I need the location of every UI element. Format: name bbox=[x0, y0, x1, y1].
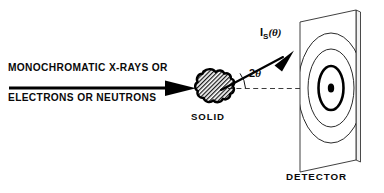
detector-panel bbox=[298, 10, 364, 172]
detector-label: DETECTOR bbox=[286, 172, 347, 182]
incident-beam-label-line2: ELECTRONS OR NEUTRONS bbox=[8, 93, 156, 103]
scattered-intensity-label: IS(θ) bbox=[260, 27, 281, 41]
scattering-angle-label: 2θ bbox=[249, 68, 261, 79]
scattering-diagram-figure: MONOCHROMATIC X-RAYS OR ELECTRONS OR NEU… bbox=[0, 0, 384, 193]
scattering-angle-arc bbox=[240, 73, 246, 88]
detector-center-spot bbox=[328, 83, 334, 92]
incident-beam-label-line1: MONOCHROMATIC X-RAYS OR bbox=[8, 63, 168, 73]
angle-theta-symbol: θ bbox=[255, 67, 261, 79]
solid-sample-label: SOLID bbox=[191, 112, 225, 122]
intensity-argument: (θ) bbox=[268, 26, 281, 38]
detector-edge-face bbox=[356, 10, 361, 162]
